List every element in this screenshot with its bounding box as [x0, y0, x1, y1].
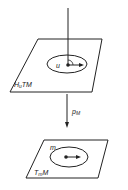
upper-plane-label: HuTM — [14, 81, 32, 89]
lower-vector-head — [76, 155, 81, 159]
upper-vector-head — [79, 63, 84, 67]
lower-plane-label: TmM — [34, 169, 48, 177]
projection-label: pM — [71, 108, 81, 116]
upper-point-label: u — [56, 62, 60, 69]
diagram: u HuTM pM m TmM — [0, 0, 128, 190]
projection-arrow-head — [65, 122, 69, 128]
lower-point-label: m — [50, 144, 56, 151]
